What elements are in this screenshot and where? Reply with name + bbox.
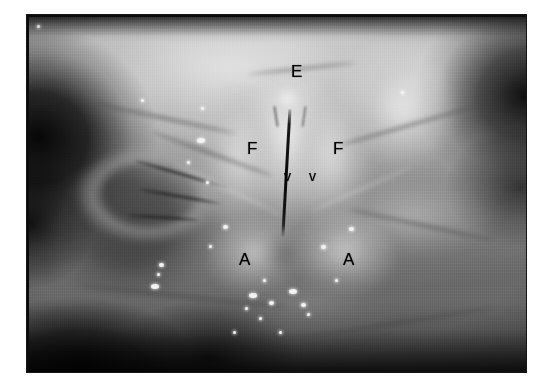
annotation-label-vocal-fold-left: v — [284, 169, 291, 183]
figure-container: EFFvvAA — [0, 0, 548, 386]
annotation-label-false-fold-left: F — [247, 140, 257, 157]
annotation-label-false-fold-right: F — [333, 140, 343, 157]
endoscopic-photo: EFFvvAA — [29, 17, 526, 372]
annotation-label-arytenoid-left: A — [239, 251, 250, 268]
annotation-label-arytenoid-right: A — [343, 251, 354, 268]
annotation-label-vocal-fold-right: v — [309, 169, 316, 183]
annotation-label-epiglottis: E — [291, 63, 302, 80]
photo-frame: EFFvvAA — [26, 14, 527, 373]
vignette-overlay — [29, 17, 526, 372]
